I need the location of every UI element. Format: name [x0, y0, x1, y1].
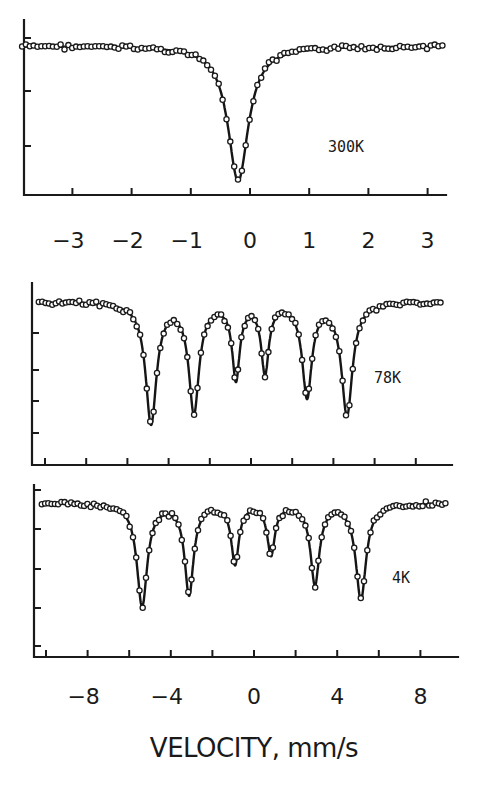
x-tick-label: 0 [243, 228, 257, 253]
data-point [219, 312, 224, 317]
mossbauer-figure: −3−2−10123300K78K−8−40484K VELOCITY, mm/… [0, 0, 479, 792]
data-point [192, 546, 197, 551]
data-point [313, 585, 318, 590]
data-point [144, 386, 149, 391]
data-point [280, 514, 285, 519]
data-point [313, 333, 318, 338]
data-point [181, 336, 186, 341]
data-point [235, 554, 240, 559]
data-point [357, 326, 362, 331]
data-point [232, 164, 237, 169]
data-point [306, 386, 311, 391]
data-point [306, 535, 311, 540]
data-point [443, 501, 448, 506]
data-point [158, 345, 163, 350]
data-point [256, 326, 261, 331]
data-point [179, 537, 184, 542]
data-point [261, 516, 266, 521]
data-point [224, 117, 229, 122]
data-point [354, 341, 359, 346]
data-point [257, 510, 262, 515]
data-point [259, 75, 264, 80]
data-point [337, 349, 342, 354]
data-point [182, 559, 187, 564]
data-point [228, 533, 233, 538]
data-point [185, 355, 190, 360]
data-point [259, 351, 264, 356]
data-point [316, 558, 321, 563]
data-point [222, 513, 227, 518]
data-point [192, 412, 197, 417]
data-point [266, 350, 271, 355]
data-point [138, 332, 143, 337]
data-point [274, 526, 279, 531]
data-point [232, 375, 237, 380]
data-point [208, 67, 213, 72]
data-point [296, 332, 301, 337]
data-point [264, 530, 269, 535]
data-point [348, 528, 353, 533]
data-point [186, 589, 191, 594]
data-point [255, 82, 260, 87]
data-point [274, 58, 279, 63]
data-point [216, 81, 221, 86]
data-point [58, 42, 63, 47]
data-point [189, 577, 194, 582]
data-point [440, 43, 445, 48]
data-point [342, 514, 347, 519]
data-point [343, 413, 348, 418]
x-tick-label: −2 [111, 228, 143, 253]
temperature-label: 4K [392, 569, 410, 587]
data-point [242, 323, 247, 328]
data-point [340, 378, 345, 383]
data-point [212, 73, 217, 78]
data-point [365, 548, 370, 553]
data-point [222, 319, 227, 324]
panel-78k: 78K [32, 283, 452, 465]
data-point [322, 522, 327, 527]
data-point [262, 375, 267, 380]
data-point [361, 579, 366, 584]
data-point [205, 63, 210, 68]
data-point [220, 97, 225, 102]
data-point [193, 52, 198, 57]
data-point [202, 332, 207, 337]
data-point [195, 528, 200, 533]
data-point [147, 548, 152, 553]
data-point [300, 357, 305, 362]
data-point [225, 325, 230, 330]
fit-curve [22, 46, 442, 181]
data-point [229, 341, 234, 346]
data-point [303, 523, 308, 528]
data-point [350, 366, 355, 371]
x-tick-label: 1 [302, 228, 316, 253]
data-point [195, 385, 200, 390]
data-point [148, 419, 153, 424]
data-point [247, 117, 252, 122]
panel-300k: −3−2−10123300K [20, 20, 447, 253]
data-point [235, 177, 240, 182]
data-point [243, 143, 248, 148]
data-point [438, 300, 443, 305]
x-tick-label: 8 [413, 684, 427, 709]
data-point [347, 403, 352, 408]
data-point [141, 352, 146, 357]
data-point [309, 565, 314, 570]
data-point [355, 574, 360, 579]
data-point [176, 522, 181, 527]
x-tick-label: 3 [421, 228, 435, 253]
fit-curve [39, 303, 441, 425]
data-point [244, 515, 249, 520]
data-point [300, 517, 305, 522]
data-point [360, 318, 365, 323]
data-point [188, 389, 193, 394]
data-point [252, 318, 257, 323]
data-point [178, 327, 183, 332]
data-point [270, 545, 275, 550]
data-point [150, 531, 155, 536]
x-tick-label: −3 [52, 228, 84, 253]
data-point [239, 335, 244, 340]
x-tick-label: 0 [247, 684, 261, 709]
panel-4k: −8−40484K [34, 485, 458, 709]
data-point [127, 524, 132, 529]
